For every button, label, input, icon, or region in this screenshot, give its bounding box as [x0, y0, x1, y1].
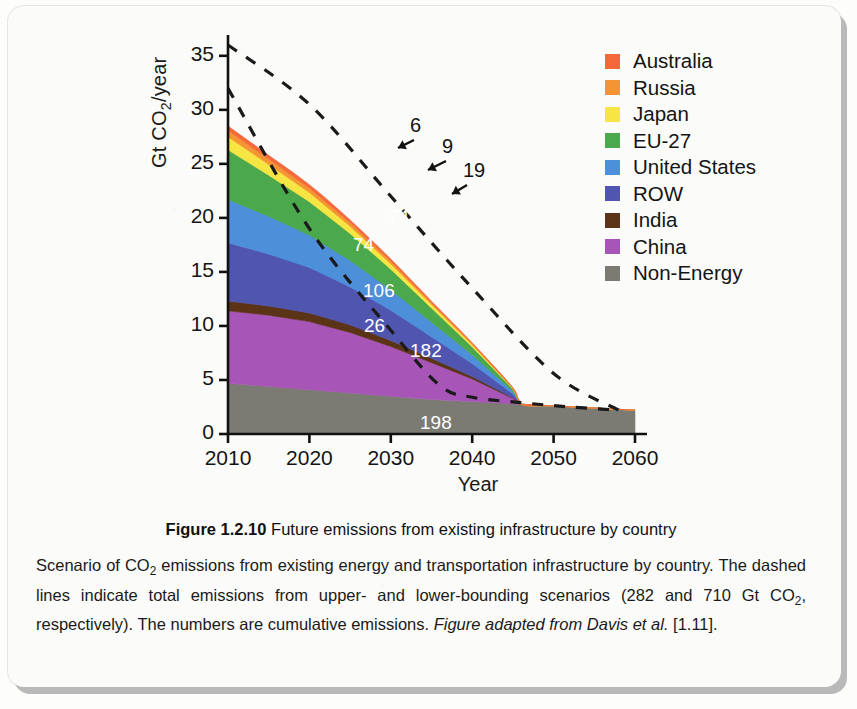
- legend-swatch-icon: [605, 107, 620, 122]
- legend-label: Russia: [633, 76, 696, 100]
- x-axis-title: Year: [398, 473, 558, 496]
- figure-caption-body: Scenario of CO2 emissions from existing …: [36, 552, 806, 638]
- x-tick-label-2030: 2030: [356, 446, 426, 470]
- x-tick-label-2020: 2020: [274, 446, 344, 470]
- legend-item-row[interactable]: ROW: [605, 181, 756, 208]
- y-tick-label-0: 0: [172, 420, 214, 444]
- y-tick-label-5: 5: [172, 366, 214, 390]
- annotation-label-6: 6: [410, 114, 421, 137]
- legend-swatch-icon: [605, 160, 620, 175]
- legend-swatch-icon: [605, 186, 620, 201]
- caption-text-4: [1.11].: [668, 615, 717, 633]
- x-tick-label-2050: 2050: [519, 446, 589, 470]
- value-label-india: 26: [364, 315, 385, 337]
- y-tick-label-10: 10: [172, 312, 214, 336]
- y-axis-title: Gt CO2/year: [148, 57, 174, 168]
- legend-label: United States: [633, 155, 756, 179]
- x-tick-label-2040: 2040: [437, 446, 507, 470]
- y-tick-label-20: 20: [172, 204, 214, 228]
- y-tick-label-25: 25: [172, 150, 214, 174]
- legend-item-eu-27[interactable]: EU-27: [605, 128, 756, 155]
- x-tick-label-2060: 2060: [600, 446, 670, 470]
- legend-item-china[interactable]: China: [605, 234, 756, 261]
- legend-swatch-icon: [605, 80, 620, 95]
- legend-label: China: [633, 235, 687, 259]
- figure-number: Figure 1.2.10: [166, 520, 267, 538]
- figure-page: Gt CO2/year Year 05101520253035 20102020…: [0, 0, 857, 709]
- figure-title-text: Future emissions from existing infrastru…: [271, 520, 676, 538]
- legend-swatch-icon: [605, 213, 620, 228]
- legend-swatch-icon: [605, 239, 620, 254]
- value-label-row: 106: [363, 280, 395, 302]
- legend-item-japan[interactable]: Japan: [605, 101, 756, 128]
- legend-item-non-energy[interactable]: Non-Energy: [605, 260, 756, 287]
- value-label-non-energy: 198: [420, 412, 452, 434]
- y-tick-label-15: 15: [172, 258, 214, 282]
- legend-label: Japan: [633, 102, 689, 126]
- legend-swatch-icon: [605, 133, 620, 148]
- caption-source-italic: Figure adapted from Davis et al.: [434, 615, 669, 633]
- x-tick-label-2010: 2010: [193, 446, 263, 470]
- value-label-united-states: 74: [353, 234, 374, 256]
- chart-legend: AustraliaRussiaJapanEU-27United StatesRO…: [605, 48, 756, 287]
- legend-item-russia[interactable]: Russia: [605, 75, 756, 102]
- figure-caption-title: Figure 1.2.10 Future emissions from exis…: [36, 520, 806, 539]
- legend-item-united-states[interactable]: United States: [605, 154, 756, 181]
- y-tick-label-35: 35: [172, 42, 214, 66]
- annotation-label-9: 9: [442, 135, 453, 158]
- legend-label: EU-27: [633, 129, 691, 153]
- legend-label: Australia: [633, 49, 713, 73]
- legend-label: India: [633, 208, 677, 232]
- legend-swatch-icon: [605, 266, 620, 281]
- caption-text-1: Scenario of CO: [36, 556, 150, 574]
- annotation-label-19: 19: [463, 159, 485, 182]
- chart: Gt CO2/year Year 05101520253035 20102020…: [120, 18, 820, 498]
- legend-item-australia[interactable]: Australia: [605, 48, 756, 75]
- value-label-eu-27: 74: [388, 206, 409, 228]
- legend-item-india[interactable]: India: [605, 207, 756, 234]
- value-label-china: 182: [410, 340, 442, 362]
- figure-caption: Figure 1.2.10 Future emissions from exis…: [36, 520, 806, 638]
- legend-swatch-icon: [605, 54, 620, 69]
- legend-label: Non-Energy: [633, 261, 742, 285]
- legend-label: ROW: [633, 182, 683, 206]
- y-tick-label-30: 30: [172, 96, 214, 120]
